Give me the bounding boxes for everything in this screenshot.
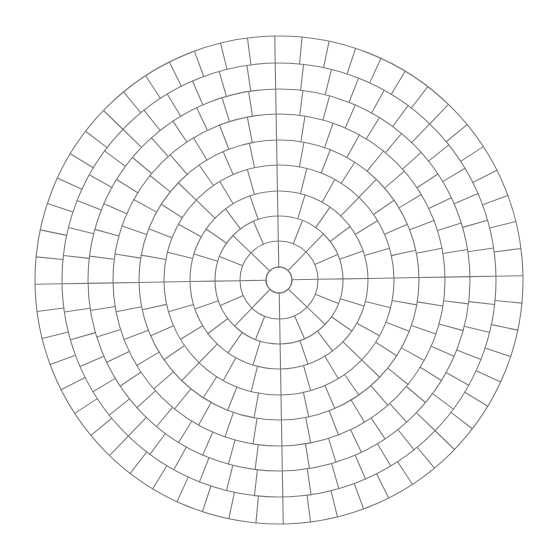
radial-joint: [437, 223, 461, 230]
radial-joint: [391, 71, 405, 94]
radial-joint: [298, 195, 305, 219]
radial-joint: [192, 81, 202, 105]
radial-joint: [86, 131, 107, 147]
radial-joint: [144, 110, 160, 130]
radial-joint: [376, 342, 397, 356]
radial-joint: [325, 356, 338, 378]
radial-joint: [203, 432, 213, 455]
concentric-rings: [35, 36, 523, 524]
radial-joint: [117, 180, 138, 193]
radial-joint: [77, 200, 101, 210]
radial-joint: [388, 368, 408, 384]
radial-joint: [220, 296, 243, 306]
radial-joint: [457, 350, 481, 360]
radial-joint: [173, 121, 187, 142]
radial-joint: [399, 195, 421, 208]
radial-joint: [64, 308, 90, 312]
radial-joint: [153, 466, 167, 489]
radial-joint: [151, 326, 174, 336]
radial-joint: [362, 360, 380, 377]
radial-joint: [494, 248, 521, 251]
radial-joint: [454, 193, 478, 203]
radial-joint: [182, 363, 199, 381]
radial-joint: [288, 252, 306, 271]
radial-joint: [301, 116, 305, 142]
radial-joint: [435, 431, 454, 450]
radial-joint: [386, 133, 402, 152]
radial-joint: [341, 197, 359, 216]
radial-joints: [35, 36, 523, 524]
radial-joint: [410, 221, 434, 230]
radial-joint: [122, 226, 147, 234]
radial-joint: [202, 486, 210, 512]
radial-joint: [168, 305, 193, 312]
radial-joint: [197, 108, 208, 131]
radial-joint: [40, 230, 66, 236]
radial-joint: [366, 118, 379, 139]
radial-joint: [247, 117, 252, 143]
radial-joint: [491, 325, 517, 331]
radial-joint: [250, 196, 258, 220]
radial-joint: [295, 316, 305, 339]
radial-joint: [465, 392, 488, 406]
radial-joint: [156, 407, 172, 426]
radial-joint: [228, 332, 242, 352]
radial-joint: [61, 378, 85, 390]
radial-joint: [305, 444, 309, 469]
radial-joint: [228, 440, 235, 464]
radial-joint: [444, 301, 469, 304]
radial-joint: [177, 477, 188, 502]
radial-joint: [403, 152, 422, 169]
radial-joint: [417, 302, 443, 306]
radial-joint: [345, 105, 355, 128]
radial-joint: [385, 171, 405, 188]
radial-joint: [228, 387, 237, 410]
radial-joint: [167, 252, 192, 258]
radial-joint: [194, 254, 218, 261]
radial-joint: [483, 195, 508, 204]
radial-joint: [252, 289, 270, 308]
radial-joint: [416, 248, 442, 253]
radial-joint: [179, 421, 192, 442]
radial-joint: [307, 495, 310, 522]
radial-joint: [463, 220, 488, 227]
radial-joint: [174, 447, 187, 470]
radial-joint: [97, 330, 121, 337]
radial-joint: [203, 377, 217, 398]
radial-joint: [431, 346, 454, 356]
radial-joint: [392, 300, 417, 304]
radial-joint: [116, 307, 142, 312]
radial-joint: [225, 209, 240, 229]
radial-joint: [89, 175, 112, 188]
radial-joint: [208, 319, 228, 334]
radial-joint: [401, 348, 424, 361]
radial-joint: [57, 178, 82, 189]
radial-joint: [429, 198, 452, 209]
radial-joint: [256, 316, 265, 339]
radial-joint: [149, 229, 172, 238]
radial-joint: [411, 87, 427, 108]
radial-joint: [253, 221, 263, 244]
radial-joint: [370, 58, 381, 83]
radial-joint: [391, 250, 415, 255]
radial-joint: [255, 445, 258, 470]
radial-joint: [373, 200, 394, 214]
radial-joint: [301, 64, 304, 90]
radial-joint: [233, 236, 251, 253]
radial-joint: [325, 385, 335, 408]
radial-joint: [142, 304, 166, 309]
radial-joint: [223, 152, 233, 175]
radial-joint: [110, 436, 129, 455]
radial-joint: [430, 104, 449, 123]
ring-boundary-5: [139, 140, 419, 420]
radial-joint: [161, 204, 182, 218]
radial-joint: [332, 464, 339, 489]
radial-joint: [288, 289, 307, 307]
radial-joint: [307, 307, 325, 324]
radial-joint: [150, 176, 170, 192]
radial-joint: [225, 412, 233, 437]
radial-joint: [199, 344, 217, 363]
ring-boundary-6: [113, 114, 445, 446]
radial-joint: [412, 124, 430, 143]
radial-joint: [355, 221, 377, 234]
